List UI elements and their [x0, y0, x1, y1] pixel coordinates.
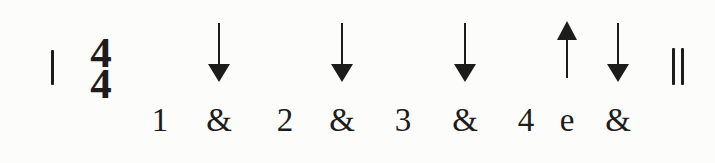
end-barline-second-line [681, 48, 684, 85]
beat-label: e [560, 104, 575, 137]
beat-label: & [206, 104, 232, 137]
beat-label: 4 [518, 104, 535, 137]
start-barline [51, 50, 54, 85]
beat-label: 3 [395, 104, 412, 137]
time-signature: 4 4 [90, 37, 112, 99]
strum-pattern-figure: 4 4 1&2&3&4e& [0, 0, 715, 163]
downstroke-arrow [605, 20, 631, 84]
end-barline-first-line [672, 48, 675, 85]
downstroke-arrow [206, 20, 232, 84]
upstroke-arrow [554, 19, 580, 83]
beat-label: 2 [277, 104, 294, 137]
time-signature-bottom: 4 [90, 68, 112, 99]
beat-label: & [452, 104, 478, 137]
downstroke-arrow [329, 20, 355, 84]
beat-label: & [329, 104, 355, 137]
downstroke-arrow [452, 20, 478, 84]
beat-label: & [605, 104, 631, 137]
beat-label: 1 [152, 104, 169, 137]
